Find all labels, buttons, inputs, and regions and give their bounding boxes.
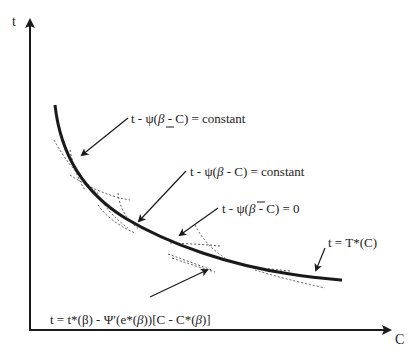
x-axis-label: C xyxy=(395,332,404,347)
level-curve-lower-beta-a xyxy=(54,140,100,195)
envelope-curve xyxy=(55,105,342,280)
label-lower-constant: t - ψ(β - C) = constant xyxy=(131,111,246,126)
arrow-upper-zero xyxy=(180,208,218,235)
label-envelope: t = T*(C) xyxy=(328,235,377,250)
label-mid-constant: t - ψ(β - C) = constant xyxy=(190,164,305,179)
tangent-line-b xyxy=(172,258,215,272)
arrow-tangent xyxy=(150,270,207,297)
arrow-envelope xyxy=(316,248,325,270)
axes: t C xyxy=(12,14,404,347)
arrow-lower-constant xyxy=(82,118,128,155)
label-upper-zero: t - ψ(β - C) = 0 xyxy=(222,201,300,216)
level-curve-lower-beta-c xyxy=(70,175,130,200)
labels: t - ψ(β - C) = constant t - ψ(β - C) = c… xyxy=(50,111,377,327)
tangent-line-a xyxy=(168,254,212,270)
diagram-canvas: t C t - ψ(β - C) = constant xyxy=(0,0,418,355)
arrow-mid-constant xyxy=(139,171,186,221)
label-tangent: t = t*(β) - Ψ′(e*(β))[C - C*(β)] xyxy=(50,312,211,327)
y-axis-label: t xyxy=(12,14,16,29)
